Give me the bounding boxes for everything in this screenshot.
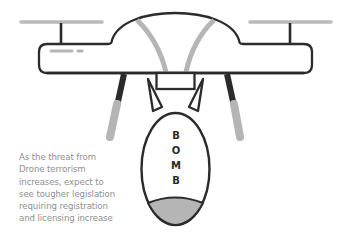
bomb-letter: B bbox=[168, 173, 184, 188]
right-leg bbox=[227, 74, 240, 137]
bomb-letter: O bbox=[168, 143, 184, 158]
caption-text: As the threat from Drone terrorism incre… bbox=[19, 151, 139, 225]
left-propeller bbox=[21, 22, 102, 44]
caption-line: Drone terrorism bbox=[19, 163, 139, 175]
caption-line: see tougher legislation bbox=[19, 188, 139, 200]
bomb-letter: M bbox=[168, 158, 184, 173]
bomb-bracket bbox=[148, 73, 203, 111]
caption-line: and licensing increase bbox=[19, 212, 139, 224]
right-propeller bbox=[250, 22, 331, 44]
left-leg bbox=[110, 74, 124, 137]
bomb-letter: B bbox=[168, 128, 184, 143]
caption-line: requiring registration bbox=[19, 200, 139, 212]
caption-line: increases, expect to bbox=[19, 176, 139, 188]
caption-line: As the threat from bbox=[19, 151, 139, 163]
bomb-label: B O M B bbox=[168, 128, 184, 188]
